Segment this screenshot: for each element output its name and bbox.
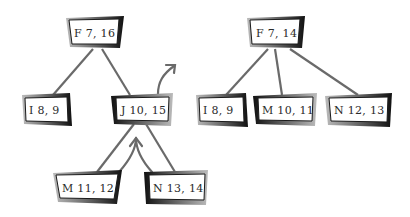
node-label: N 13, 14 xyxy=(153,182,204,195)
edge-J-M xyxy=(97,124,134,172)
node-J-10-15: J 10, 15 xyxy=(111,93,173,126)
node-M-11-12: M 11, 12 xyxy=(53,170,122,204)
node-label: N 12, 13 xyxy=(334,104,385,117)
up-right-arrow-icon xyxy=(158,65,175,94)
edge-F-N-right xyxy=(290,49,358,95)
edge-F-M-right xyxy=(275,49,282,95)
node-N-12-13: N 12, 13 xyxy=(325,93,392,127)
node-F-7-14: F 7, 14 xyxy=(247,16,305,48)
node-label: F 7, 14 xyxy=(256,27,297,40)
node-label: I 8, 9 xyxy=(203,104,234,117)
node-label: J 10, 15 xyxy=(120,104,166,117)
node-N-13-14: N 13, 14 xyxy=(144,170,208,205)
edge-J-N xyxy=(146,124,175,172)
node-F-7-16: F 7, 16 xyxy=(66,16,124,48)
edge-F-I-right xyxy=(226,49,268,95)
up-arrow-icon xyxy=(119,138,152,172)
node-label: I 8, 9 xyxy=(29,104,60,117)
edge-F-J xyxy=(102,49,130,95)
tree-diagram: F 7, 16 I 8, 9 J 10, 15 M 11, 12 N 13, 1… xyxy=(0,0,410,217)
node-label: M 10, 11 xyxy=(262,104,314,117)
node-label: F 7, 16 xyxy=(74,27,115,40)
node-I-8-9-left: I 8, 9 xyxy=(22,93,72,126)
node-label: M 11, 12 xyxy=(62,182,114,195)
edge-F-I xyxy=(53,49,93,95)
node-I-8-9-right: I 8, 9 xyxy=(196,93,248,127)
node-M-10-11: M 10, 11 xyxy=(253,93,317,126)
right-tree-edges xyxy=(226,49,358,95)
